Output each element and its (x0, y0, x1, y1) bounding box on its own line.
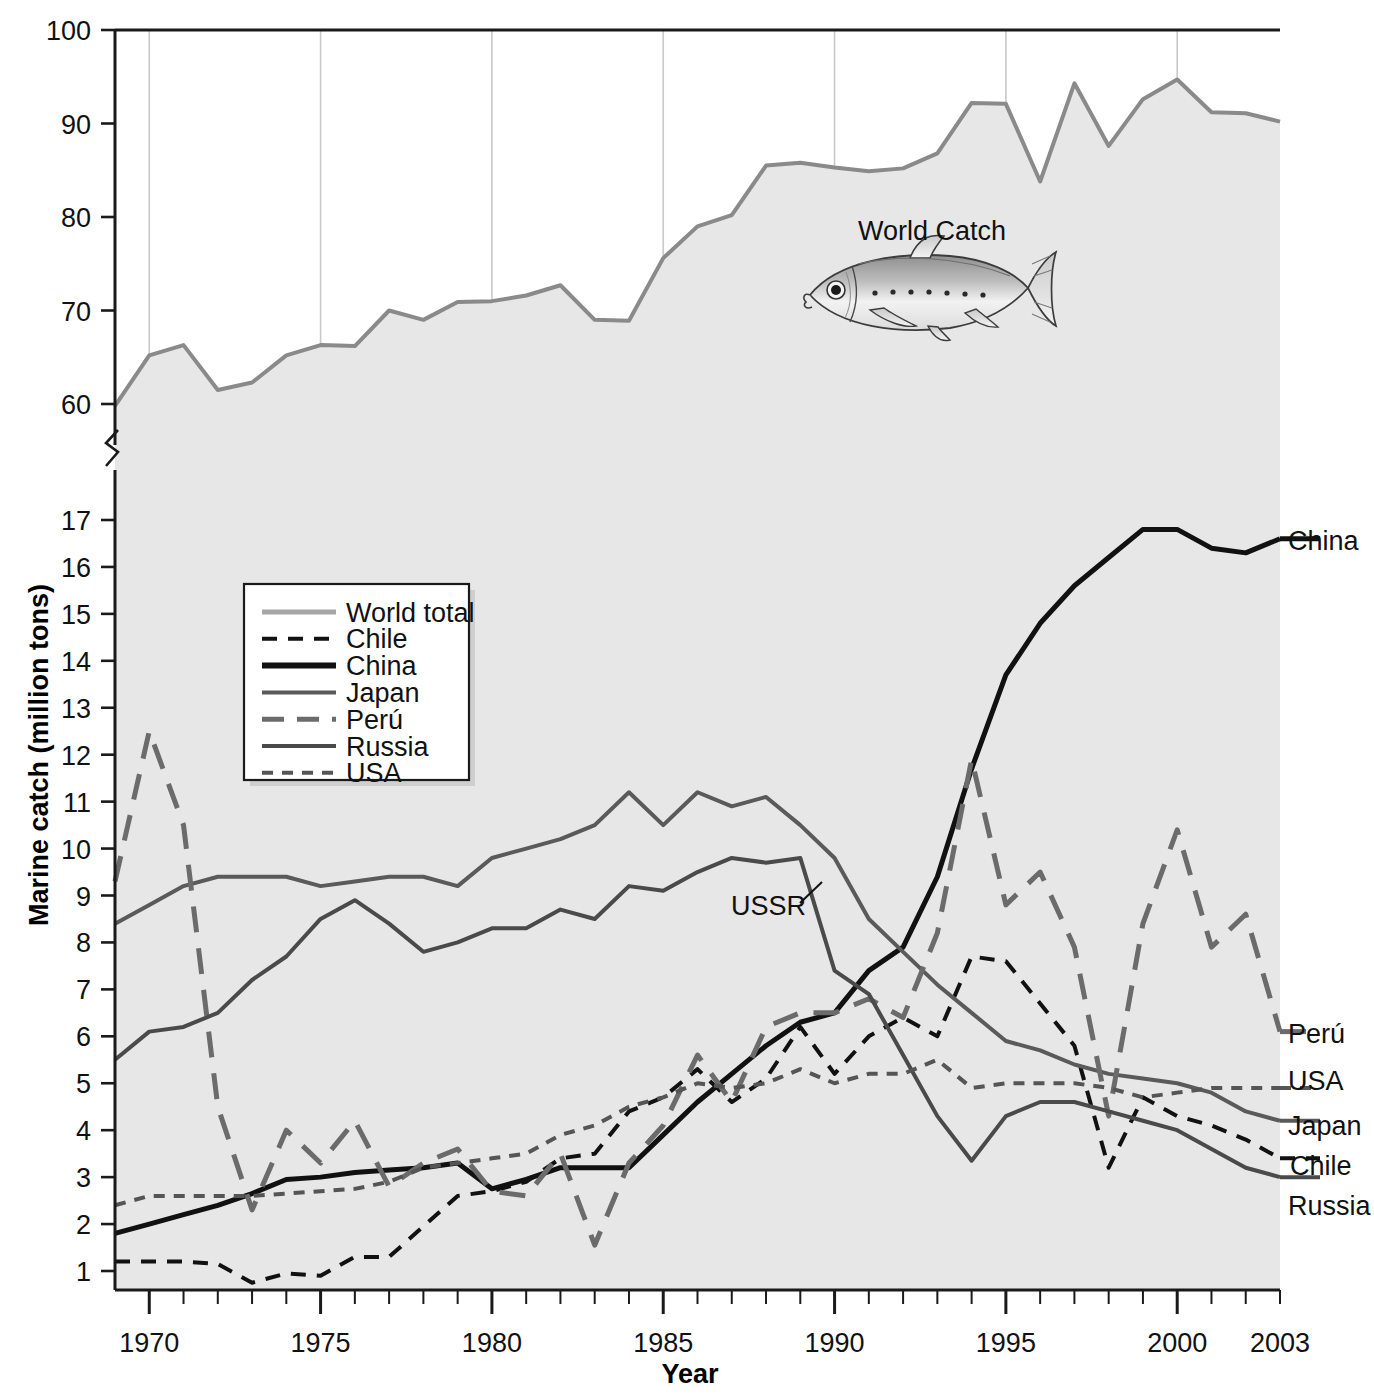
legend-label-china: China (346, 651, 418, 681)
legend-label-usa: USA (346, 758, 402, 788)
chart-page: 1009080706012345678910111213141516171970… (0, 0, 1374, 1394)
xtick-label-2000: 2000 (1147, 1328, 1207, 1358)
ytick-label-11: 11 (63, 788, 91, 818)
xtick-label-1975: 1975 (291, 1328, 351, 1358)
xtick-label-1970: 1970 (119, 1328, 179, 1358)
legend: World totalChileChinaJapanPerúRussiaUSA (244, 584, 475, 788)
end-label-japan: Japan (1288, 1111, 1362, 1141)
ytick-label-8: 8 (76, 928, 91, 958)
ytick-label-7: 7 (76, 975, 91, 1005)
y-axis-title: Marine catch (million tons) (24, 584, 54, 926)
end-label-china: China (1288, 526, 1360, 556)
xtick-label-1980: 1980 (462, 1328, 522, 1358)
ytick-label-9: 9 (76, 882, 91, 912)
end-label-chile: Chile (1290, 1151, 1352, 1181)
ytick-label-10: 10 (61, 835, 91, 865)
ytick-label-13: 13 (61, 694, 91, 724)
legend-label-russia: Russia (346, 732, 430, 762)
legend-label-chile: Chile (346, 624, 408, 654)
ytick-label-2: 2 (76, 1210, 91, 1240)
marine-catch-chart: 1009080706012345678910111213141516171970… (0, 0, 1374, 1394)
world-catch-annotation: World Catch (858, 216, 1006, 246)
ytick-label-1: 1 (76, 1257, 91, 1287)
x-axis-title: Year (661, 1359, 719, 1389)
ytick-label-15: 15 (61, 600, 91, 630)
ytick-label-80: 80 (61, 203, 91, 233)
xtick-label-1985: 1985 (633, 1328, 693, 1358)
ytick-label-5: 5 (76, 1069, 91, 1099)
ytick-label-14: 14 (61, 647, 91, 677)
ytick-label-16: 16 (61, 553, 91, 583)
ytick-label-60: 60 (61, 390, 91, 420)
ussr-annotation: USSR (731, 891, 806, 921)
ytick-label-12: 12 (61, 741, 91, 771)
xtick-label-1995: 1995 (976, 1328, 1036, 1358)
end-label-peru: Perú (1288, 1019, 1345, 1049)
xtick-label-1990: 1990 (805, 1328, 865, 1358)
ytick-label-90: 90 (61, 110, 91, 140)
ytick-label-6: 6 (76, 1022, 91, 1052)
end-label-usa: USA (1288, 1066, 1344, 1096)
ytick-label-70: 70 (61, 297, 91, 327)
legend-label-japan: Japan (346, 678, 420, 708)
ytick-label-17: 17 (61, 506, 91, 536)
end-label-russia: Russia (1288, 1191, 1372, 1221)
ytick-label-3: 3 (76, 1163, 91, 1193)
ytick-label-4: 4 (76, 1116, 91, 1146)
legend-label-per-: Perú (346, 705, 403, 735)
legend-label-world-total: World total (346, 598, 475, 628)
ytick-label-100: 100 (46, 16, 91, 46)
xtick-label-2003: 2003 (1250, 1328, 1310, 1358)
